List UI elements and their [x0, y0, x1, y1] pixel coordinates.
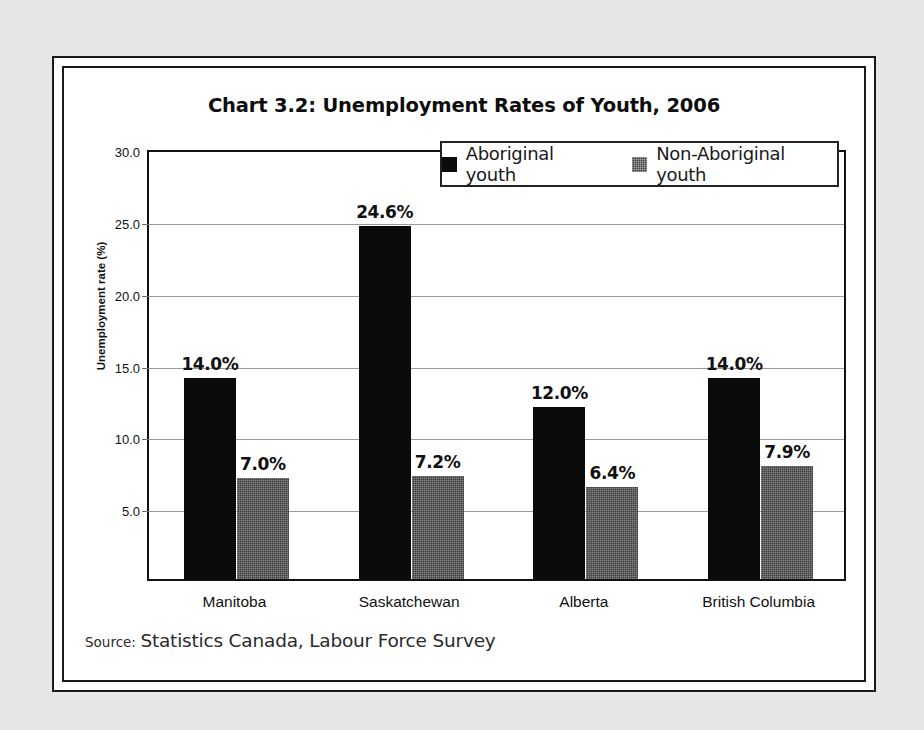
legend-label-aboriginal-youth: Aboriginal youth: [466, 143, 607, 185]
source-label: Source:: [85, 634, 136, 650]
plot-area: 30.025.020.015.010.05.014.0%7.0%24.6%7.2…: [147, 150, 846, 581]
chart-outer-frame: Chart 3.2: Unemployment Rates of Youth, …: [52, 56, 876, 692]
bar-british-columbia-non-aboriginal-youth: [761, 466, 813, 579]
bar-alberta-aboriginal-youth: [533, 407, 585, 579]
category-label-british-columbia: British Columbia: [671, 593, 846, 611]
legend-swatch-icon-non-aboriginal-youth: [632, 157, 647, 172]
legend-swatch-icon-aboriginal-youth: [442, 157, 457, 172]
source-line: Source: Statistics Canada, Labour Force …: [85, 630, 496, 651]
bar-manitoba-non-aboriginal-youth: [237, 478, 289, 579]
y-tick-label: 15.0: [115, 360, 140, 375]
y-tick-mark: [142, 439, 149, 440]
legend-item-aboriginal-youth: Aboriginal youth: [442, 143, 606, 185]
bar-value-label: 14.0%: [706, 354, 763, 374]
category-label-alberta: Alberta: [497, 593, 672, 611]
bar-british-columbia-aboriginal-youth: [708, 378, 760, 579]
bar-value-label: 7.9%: [764, 442, 810, 462]
y-tick-label: 10.0: [115, 432, 140, 447]
y-tick-label: 5.0: [122, 504, 140, 519]
bar-saskatchewan-non-aboriginal-youth: [412, 476, 464, 579]
bar-value-label: 7.0%: [240, 454, 286, 474]
y-tick-label: 30.0: [115, 145, 140, 160]
bar-saskatchewan-aboriginal-youth: [359, 226, 411, 579]
category-label-manitoba: Manitoba: [147, 593, 322, 611]
bar-value-label: 14.0%: [181, 354, 238, 374]
legend-item-non-aboriginal-youth: Non-Aboriginal youth: [632, 143, 837, 185]
gridline: [149, 224, 844, 225]
bar-value-label: 12.0%: [531, 383, 588, 403]
y-axis-title: Unemployment rate (%): [95, 206, 107, 406]
legend-label-non-aboriginal-youth: Non-Aboriginal youth: [656, 143, 837, 185]
chart-legend: Aboriginal youth Non-Aboriginal youth: [440, 141, 839, 187]
y-tick-mark: [142, 296, 149, 297]
bar-alberta-non-aboriginal-youth: [586, 487, 638, 579]
y-tick-mark: [142, 368, 149, 369]
chart-title: Chart 3.2: Unemployment Rates of Youth, …: [64, 94, 864, 117]
category-label-saskatchewan: Saskatchewan: [322, 593, 497, 611]
y-tick-label: 25.0: [115, 216, 140, 231]
bar-value-label: 7.2%: [415, 452, 461, 472]
bar-value-label: 6.4%: [590, 463, 636, 483]
y-tick-label: 20.0: [115, 288, 140, 303]
y-tick-mark: [142, 224, 149, 225]
source-text: Statistics Canada, Labour Force Survey: [140, 630, 495, 651]
bar-value-label: 24.6%: [356, 202, 413, 222]
bar-manitoba-aboriginal-youth: [184, 378, 236, 579]
gridline: [149, 296, 844, 297]
chart-inner-frame: Chart 3.2: Unemployment Rates of Youth, …: [62, 66, 866, 682]
y-tick-mark: [142, 511, 149, 512]
